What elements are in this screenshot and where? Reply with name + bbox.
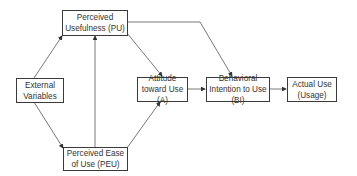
node-label: Perceived Usefulness (PU) <box>63 12 127 34</box>
edge-ext-pu <box>34 36 62 78</box>
node-perceived-usefulness: Perceived Usefulness (PU) <box>62 10 128 36</box>
edge-pu-bi <box>128 22 232 76</box>
node-label: External Variables <box>23 80 57 102</box>
edge-ext-peu <box>34 102 63 148</box>
node-label: Perceived Ease of Use (PEU) <box>64 148 127 170</box>
node-behavioral-intention: Behavioral Intention to Use (BI) <box>206 77 270 102</box>
node-label: Behavioral Intention to Use (BI) <box>207 73 269 106</box>
node-perceived-ease-of-use: Perceived Ease of Use (PEU) <box>63 147 128 171</box>
node-label: Attitude toward Use (A) <box>138 73 187 106</box>
node-external-variables: External Variables <box>16 78 64 103</box>
edge-pu-att <box>127 33 162 76</box>
node-label: Actual Use (Usage) <box>292 79 332 101</box>
node-actual-use: Actual Use (Usage) <box>287 77 337 102</box>
node-attitude: Attitude toward Use (A) <box>137 77 188 102</box>
edge-peu-att <box>127 102 160 148</box>
